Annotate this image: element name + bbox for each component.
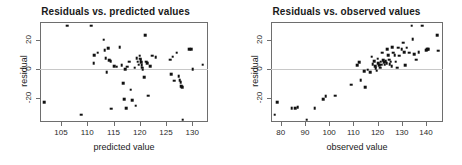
panel-title-observed: Residuals vs. observed values [231,6,462,17]
x-axis-tick-label: 125 [159,128,172,137]
scatter-point [190,48,193,51]
scatter-point [191,68,194,71]
x-axis-tick-label: 130 [395,128,408,137]
scatter-point [410,24,413,27]
scatter-point [417,51,420,54]
scatter-point [405,46,408,49]
x-axis-tick [61,122,62,126]
scatter-point [334,94,337,97]
scatter-point [122,82,125,85]
x-axis-tick [192,122,193,126]
scatter-point [133,66,136,69]
y-axis-tick [36,40,40,41]
scatter-point [408,52,411,55]
scatter-point [398,55,401,58]
scatter-point [130,88,133,91]
scatter-point [369,71,372,74]
y-axis-tick [267,69,271,70]
scatter-point [96,52,99,55]
x-axis-tick-label: 90 [300,128,309,137]
x-axis-tick-label: 110 [81,128,94,137]
scatter-point [169,58,172,61]
y-axis-tick [267,98,271,99]
scatter-point [402,41,405,44]
scatter-point [170,73,173,76]
x-axis-title-predicted: predicted value [93,142,154,152]
x-axis-title-observed: observed value [326,142,387,152]
x-axis-tick-label: 110 [347,128,360,137]
scatter-point [413,53,416,56]
x-axis-tick [281,122,282,126]
scatter-point [324,95,327,98]
scatter-point [404,64,407,67]
scatter-point [110,107,113,110]
scatter-point [427,48,430,51]
scatter-point [391,46,394,49]
scatter-point [125,107,128,110]
scatter-point [390,65,393,68]
scatter-point [131,99,134,102]
scatter-point [375,69,378,72]
scatter-point [322,98,325,101]
scatter-point [173,80,176,83]
scatter-point [356,64,359,67]
scatter-point [296,106,299,109]
x-axis-tick-label: 115 [107,128,120,137]
scatter-point [119,46,122,49]
scatter-point [144,34,147,37]
y-axis-tick-label: -20 [255,92,264,104]
x-axis-tick-label: 80 [276,128,285,137]
scatter-point [103,49,106,52]
x-axis-tick-label: 100 [322,128,335,137]
scatter-point [172,55,175,58]
scatter-point [363,70,366,73]
scatter-point [182,118,185,121]
scatter-point [403,51,406,54]
scatter-point [43,101,46,104]
scatter-point [373,60,376,63]
x-axis-tick [140,122,141,126]
scatter-point [110,60,113,63]
scatter-point [411,38,414,41]
scatter-point [143,76,146,79]
scatter-point [126,66,129,69]
scatter-point [93,54,96,57]
panel-residuals-vs-observed: Residuals vs. observed values observed v… [231,0,462,165]
scatter-point [66,24,69,27]
scatter-point [121,64,124,67]
scatter-point [181,86,184,89]
x-axis-tick [378,122,379,126]
scatter-point [396,66,399,69]
x-axis-tick [329,122,330,126]
y-axis-tick-label: 20 [24,33,33,45]
scatter-point [397,46,400,49]
scatter-point [386,48,389,51]
scatter-point [350,83,353,86]
scatter-point [128,60,131,63]
x-axis-tick-label: 140 [419,128,432,137]
scatter-point [381,52,384,55]
scatter-point [107,47,110,50]
scatter-point [92,62,95,65]
x-axis-tick-label: 130 [186,128,199,137]
x-axis-tick-label: 120 [371,128,384,137]
scatter-point [389,60,392,63]
scatter-point [201,63,204,66]
scatter-point [358,61,361,64]
residual-diagnostic-figure: Residuals vs. predicted values predicted… [0,0,462,165]
scatter-point [387,54,390,57]
scatter-point [177,75,180,78]
scatter-point [364,86,367,89]
scatter-point [147,94,150,97]
scatter-point [436,34,439,37]
scatter-point [90,24,93,27]
y-axis-tick-label: 0 [24,63,33,75]
scatter-point [154,56,157,59]
x-axis-tick [114,122,115,126]
scatter-point [105,71,108,74]
scatter-point [359,79,362,82]
panel-title-predicted: Residuals vs. predicted values [0,6,231,17]
scatter-point [290,107,293,110]
scatter-point [149,65,152,68]
scatter-point [306,118,309,121]
